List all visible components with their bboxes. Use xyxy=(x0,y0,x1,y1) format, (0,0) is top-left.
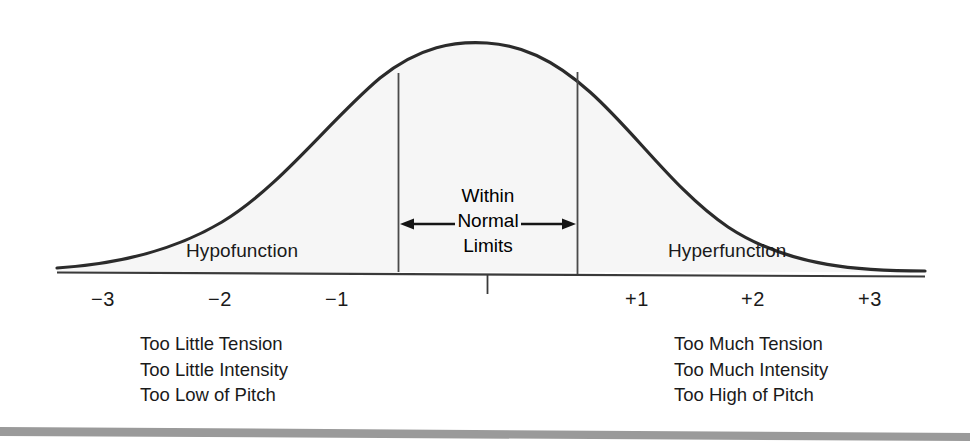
within-normal-limits-label: Within Normal Limits xyxy=(408,183,568,258)
hypofunction-description-block: Too Little Tension Too Little Intensity … xyxy=(140,331,288,408)
hyperfunction-desc-line-3: Too High of Pitch xyxy=(674,382,828,408)
hypofunction-desc-line-1: Too Little Tension xyxy=(140,331,288,357)
x-axis-line xyxy=(57,273,925,277)
tick-label-minus-2: −2 xyxy=(208,288,232,311)
tick-label-plus-2: +2 xyxy=(741,288,765,311)
hypofunction-desc-line-2: Too Little Intensity xyxy=(140,357,288,383)
hyperfunction-description-block: Too Much Tension Too Much Intensity Too … xyxy=(674,331,828,408)
hypofunction-label: Hypofunction xyxy=(186,240,298,262)
wnl-line-3: Limits xyxy=(408,233,568,258)
bottom-divider-bar xyxy=(0,419,970,445)
tick-label-minus-1: −1 xyxy=(325,288,349,311)
tick-label-minus-3: −3 xyxy=(91,288,115,311)
tick-label-plus-1: +1 xyxy=(625,288,649,311)
hypofunction-desc-line-3: Too Low of Pitch xyxy=(140,382,288,408)
tick-label-plus-3: +3 xyxy=(858,288,882,311)
hyperfunction-desc-line-2: Too Much Intensity xyxy=(674,357,828,383)
distribution-figure: Hypofunction Hyperfunction Within Normal… xyxy=(0,0,970,445)
hyperfunction-label: Hyperfunction xyxy=(668,240,787,262)
wnl-line-2: Normal xyxy=(408,208,568,233)
hyperfunction-desc-line-1: Too Much Tension xyxy=(674,331,828,357)
wnl-line-1: Within xyxy=(408,183,568,208)
